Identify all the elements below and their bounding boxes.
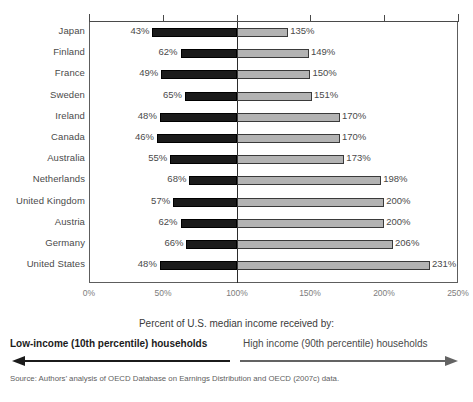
bar-low-income	[160, 113, 237, 122]
bar-row: Finland62%149%	[0, 43, 473, 64]
bar-low-income	[170, 155, 236, 164]
axis-tick	[310, 15, 311, 22]
category-label: Japan	[59, 25, 85, 36]
bar-value-label-low-income: 43%	[126, 25, 149, 36]
axis-tick	[237, 15, 238, 22]
bar-value-label-low-income: 68%	[163, 173, 186, 184]
bar-low-income	[152, 28, 236, 37]
bar-high-income	[237, 70, 311, 79]
bar-value-label-high-income: 200%	[386, 195, 410, 206]
bar-high-income	[237, 49, 309, 58]
category-label: Austria	[55, 216, 85, 227]
bar-high-income	[237, 134, 340, 143]
bar-row: Australia55%173%	[0, 149, 473, 170]
bar-value-label-high-income: 173%	[346, 152, 370, 163]
bar-high-income	[237, 240, 393, 249]
bar-value-label-low-income: 66%	[160, 237, 183, 248]
bar-row: Japan43%135%	[0, 22, 473, 43]
arrow-right-icon	[240, 355, 458, 367]
arrow-left-icon	[12, 355, 230, 367]
bar-high-income	[237, 28, 289, 37]
bar-high-income	[237, 198, 385, 207]
category-label: Germany	[45, 237, 85, 248]
bar-value-label-high-income: 206%	[395, 237, 419, 248]
bar-value-label-high-income: 170%	[342, 110, 366, 121]
bar-value-label-low-income: 57%	[147, 195, 170, 206]
category-label: Ireland	[55, 110, 85, 121]
category-label: Canada	[51, 131, 85, 142]
bar-value-label-low-income: 48%	[134, 258, 157, 269]
bar-value-label-high-income: 231%	[432, 258, 456, 269]
bar-low-income	[157, 134, 237, 143]
bar-low-income	[185, 92, 237, 101]
source-note: Source: Authors’ analysis of OECD Databa…	[10, 374, 339, 383]
bar-row: Canada46%170%	[0, 128, 473, 149]
x-axis-tick-label: 150%	[299, 288, 321, 298]
category-label: Finland	[53, 46, 85, 57]
bar-row: United Kingdom57%200%	[0, 192, 473, 213]
bar-value-label-high-income: 149%	[311, 46, 335, 57]
legend-label-high-income: High income (90th percentile) households	[243, 338, 428, 349]
axis-tick	[89, 14, 90, 22]
bar-value-label-high-income: 151%	[314, 89, 338, 100]
bar-value-label-low-income: 46%	[131, 131, 154, 142]
bar-value-label-low-income: 62%	[155, 46, 178, 57]
bar-high-income	[237, 261, 430, 270]
bar-value-label-low-income: 55%	[144, 152, 167, 163]
bar-row: Netherlands68%198%	[0, 170, 473, 191]
bar-value-label-low-income: 65%	[159, 89, 182, 100]
bar-value-label-low-income: 49%	[135, 67, 158, 78]
category-label: United Kingdom	[16, 195, 85, 206]
axis-tick	[163, 15, 164, 22]
bar-value-label-low-income: 62%	[155, 216, 178, 227]
axis-tick	[384, 15, 385, 22]
bar-row: Sweden65%151%	[0, 86, 473, 107]
x-axis-tick-label: 0%	[83, 288, 95, 298]
bar-value-label-high-income: 200%	[386, 216, 410, 227]
bar-low-income	[181, 49, 237, 58]
x-axis-tick-label: 50%	[154, 288, 171, 298]
category-label: Australia	[47, 152, 85, 163]
bar-value-label-high-income: 170%	[342, 131, 366, 142]
bar-high-income	[237, 113, 340, 122]
bar-low-income	[160, 261, 237, 270]
bar-row: Germany66%206%	[0, 234, 473, 255]
bar-row: Ireland48%170%	[0, 107, 473, 128]
category-label: Sweden	[50, 89, 85, 100]
bar-high-income	[237, 176, 382, 185]
category-label: Netherlands	[33, 173, 85, 184]
legend-label-low-income: Low-income (10th percentile) households	[10, 338, 207, 349]
bar-row: Austria62%200%	[0, 213, 473, 234]
bar-value-label-high-income: 135%	[290, 25, 314, 36]
x-axis-tick-label: 100%	[226, 288, 248, 298]
legend-annotation: Percent of U.S. median income received b…	[0, 300, 473, 402]
annotation-title: Percent of U.S. median income received b…	[0, 318, 473, 329]
bar-low-income	[181, 219, 237, 228]
bar-row: France49%150%	[0, 64, 473, 85]
axis-tick	[458, 14, 459, 22]
bar-low-income	[173, 198, 236, 207]
bar-high-income	[237, 155, 345, 164]
category-label: United States	[27, 258, 85, 269]
bar-high-income	[237, 219, 385, 228]
bar-low-income	[161, 70, 236, 79]
x-axis-tick-label: 200%	[373, 288, 395, 298]
bar-value-label-high-income: 150%	[312, 67, 336, 78]
bar-value-label-high-income: 198%	[383, 173, 407, 184]
bar-row: United States48%231%	[0, 255, 473, 276]
chart-area: Japan43%135%Finland62%149%France49%150%S…	[0, 0, 473, 300]
bar-low-income	[186, 240, 236, 249]
bar-value-label-low-income: 48%	[134, 110, 157, 121]
category-label: France	[55, 67, 85, 78]
bar-high-income	[237, 92, 312, 101]
bar-low-income	[189, 176, 236, 185]
x-axis-tick-label: 250%	[447, 288, 469, 298]
